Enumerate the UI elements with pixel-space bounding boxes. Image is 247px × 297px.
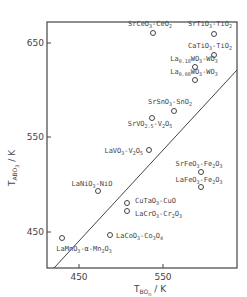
scatter-chart: 650 550 450 450 550 TBOn / K TABO3 / K [0, 0, 247, 297]
ytick-450: 450 [27, 227, 44, 237]
label-lamno3-mn2o3: LaMnO3-α-Mn2O3 [56, 245, 111, 254]
point-lacoo3-co3o4 [108, 233, 113, 238]
x-axis-title: TBOn / K [133, 284, 167, 297]
label-la008wo3-wo3: La0.08WO3-WO3 [170, 68, 218, 77]
ytick-650: 650 [27, 38, 44, 48]
label-srvo25-v2o5: SrVO2.5-V2O5 [128, 120, 173, 129]
y-axis-title: TABO3 / K [7, 149, 20, 187]
xtick-450: 450 [70, 272, 87, 282]
label-cutao3-cuo: CuTaO3-CuO [135, 197, 176, 206]
label-lacoo3-co3o4: LaCoO3-Co3O4 [116, 232, 163, 241]
point-lacro3-cr2o3 [125, 209, 130, 214]
point-lanio3-nio [96, 189, 101, 194]
label-srsno3-sno2: SrSnO3-SnO2 [148, 98, 192, 107]
label-la018wo3-wo3: La0.18WO3-WO3 [170, 55, 218, 64]
label-lafeo3-fe2o3: LaFeO3-Fe2O3 [176, 176, 223, 185]
xtick-550: 550 [154, 272, 171, 282]
point-lavo3-v2o5 [147, 148, 152, 153]
label-lavo3-v2o5: LaVO3-V2O5 [104, 147, 143, 156]
point-srsno3-sno2 [172, 109, 177, 114]
x-axis: 450 550 [70, 264, 171, 282]
point-labels: SrCeO3-CeO2 SrTiO3-TiO2 CaTiO3-TiO2 La0.… [56, 20, 232, 254]
point-cutao3-cuo [125, 201, 130, 206]
label-lacro3-cr2o3: LaCrO3-Cr2O3 [135, 210, 182, 219]
label-catio3-tio2: CaTiO3-TiO2 [188, 42, 232, 51]
point-srceo3-ceo2 [151, 31, 156, 36]
point-la008wo3-wo3 [193, 78, 198, 83]
label-lanio3-nio: LaNiO3-NiO [72, 180, 113, 189]
label-srceo3-ceo2: SrCeO3-CeO2 [128, 20, 172, 29]
point-lafeo3-fe2o3 [199, 185, 204, 190]
point-srtio3-tio2 [212, 32, 217, 37]
point-srfeo3-fe2o3 [199, 170, 204, 175]
ytick-550: 550 [27, 132, 44, 142]
label-srtio3-tio2: SrTiO3-TiO2 [188, 20, 232, 29]
label-srfeo3-fe2o3: SrFeO3-Fe2O3 [176, 160, 223, 169]
point-lamno3-mn2o3 [60, 236, 65, 241]
